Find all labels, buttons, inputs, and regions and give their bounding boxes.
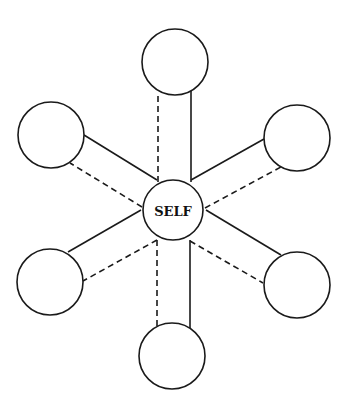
solid-connector-lower-left (68, 210, 141, 252)
solid-connector-lower-right (206, 210, 281, 255)
node-circle-lower-left (17, 249, 83, 315)
node-circle-upper-right (264, 105, 330, 171)
node-circle-bottom (139, 323, 205, 389)
solid-connector-upper-left (84, 135, 157, 180)
node-circle-top (142, 29, 208, 95)
self-relationship-diagram: SELF (0, 0, 346, 410)
node-circle-lower-right (264, 252, 330, 318)
solid-connector-upper-right (191, 139, 264, 180)
dashed-connector-upper-left (70, 163, 142, 207)
node-circle-upper-left (18, 102, 84, 168)
dashed-connector-lower-right (190, 241, 263, 283)
center-node-self: SELF (143, 180, 203, 240)
dashed-connector-lower-left (83, 240, 157, 281)
self-label: SELF (154, 204, 192, 219)
dashed-connector-upper-right (205, 167, 281, 208)
